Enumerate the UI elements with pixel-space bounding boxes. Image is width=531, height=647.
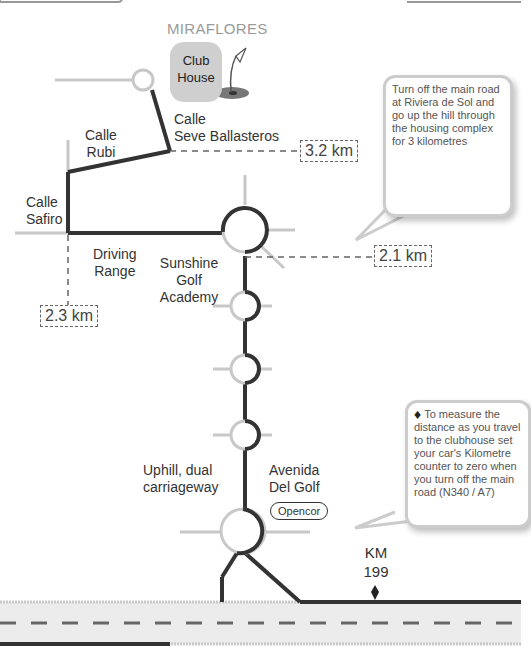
street-label-seve: Calle Seve Ballasteros [174,111,279,145]
distance-label-2-3: 2.3 km [40,305,98,327]
clubhouse-label-2: House [170,69,222,86]
sunshine-1: Sunshine [149,255,229,272]
street-label-safiro: Calle Safiro [26,194,63,228]
street-label-avenida: Avenida Del Golf [269,462,320,496]
label-driving-range: Driving Range [93,246,137,280]
uphill-2: carriageway [143,479,218,496]
driving-1: Driving [93,246,137,263]
clubhouse-badge: Club House [170,42,222,102]
avenida-2: Del Golf [269,479,320,496]
label-uphill: Uphill, dual carriageway [143,462,218,496]
main-road [0,602,521,644]
sunshine-2: Golf [149,272,229,289]
info-bubble-measure-text: To measure the distance as you travel to… [414,408,520,498]
street-label-rubi: Calle Rubi [85,127,117,161]
km-label: KM [358,543,394,562]
area-title: MIRAFLORES [167,20,268,37]
distance-label-2-1: 2.1 km [374,245,432,267]
header-frame-left [0,0,122,2]
street-safiro-1: Calle [26,194,63,211]
street-seve-1: Calle [174,111,279,128]
marker-pin-icon: ♦ [414,408,421,421]
street-rubi-2: Rubi [85,144,117,161]
label-sunshine-golf-academy: Sunshine Golf Academy [149,255,229,306]
uphill-1: Uphill, dual [143,462,218,479]
distance-label-3-2: 3.2 km [300,140,358,162]
street-rubi-1: Calle [85,127,117,144]
avenida-1: Avenida [269,462,320,479]
info-bubble-measure: ♦ To measure the distance as you travel … [405,400,531,528]
info-bubble-directions: Turn off the main road at Riviera de Sol… [383,75,513,217]
street-seve-2: Seve Ballasteros [174,128,279,145]
clubhouse-label-1: Club [170,52,222,69]
roundabout-clubhouse [133,70,153,90]
km-marker-pin-icon [371,585,379,600]
km-number: 199 [358,562,394,581]
km-marker-label: KM 199 [358,543,394,581]
sunshine-3: Academy [149,289,229,306]
driving-2: Range [93,263,137,280]
street-safiro-2: Safiro [26,211,63,228]
landmark-opencor: Opencor [270,502,328,520]
